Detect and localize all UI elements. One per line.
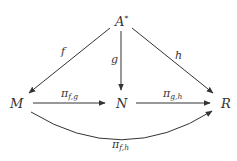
label-g: g: [111, 53, 118, 66]
commutative-diagram: A* M N R f g h πf,g πg,h πf,h: [0, 0, 237, 161]
label-f: f: [60, 45, 67, 58]
arrow-h: [132, 28, 213, 93]
node-m: M: [9, 96, 24, 111]
label-pi-fg: πf,g: [60, 87, 78, 101]
node-r: R: [220, 96, 231, 111]
arrow-pi-fh: [31, 111, 212, 140]
label-h: h: [175, 49, 182, 62]
arrow-f: [29, 28, 110, 93]
node-n: N: [115, 96, 128, 111]
label-pi-gh: πg,h: [162, 87, 182, 101]
node-a-star: A*: [114, 14, 128, 29]
